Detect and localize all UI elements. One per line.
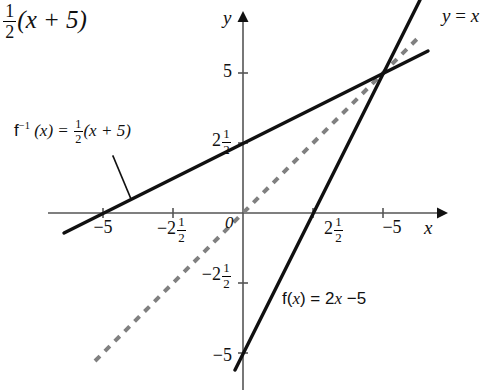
x-axis-label: x xyxy=(424,218,432,237)
mixed-whole-part: −2 xyxy=(157,218,176,238)
fraction-denominator: 2 xyxy=(74,132,83,145)
mixed-whole-part: 2 xyxy=(324,218,333,238)
fragment-tail: (x + 5) xyxy=(17,6,87,33)
inverse-exponent: −1 xyxy=(19,120,30,131)
forward-variable-2: x xyxy=(334,289,342,308)
mixed-fraction: 1 2 xyxy=(177,216,187,245)
forward-variable: x xyxy=(292,289,300,308)
mixed-fraction: 1 2 xyxy=(222,128,232,157)
inverse-argument: (x) = xyxy=(34,121,69,140)
x-tick-label-positive-5: −5 xyxy=(362,218,422,236)
inverse-fraction-one-half: 1 2 xyxy=(74,118,83,145)
identity-lhs: y xyxy=(442,5,450,26)
forward-middle: ) = 2 xyxy=(300,289,335,308)
fraction-numerator: 1 xyxy=(3,2,16,22)
fraction-denominator: 2 xyxy=(177,231,187,245)
x-tick-label-neg-5: −5 xyxy=(73,218,133,236)
identity-equals: = xyxy=(455,5,466,26)
mixed-fraction: 1 2 xyxy=(334,216,344,245)
inverse-label-leader-line xyxy=(113,156,131,199)
fraction-denominator: 2 xyxy=(334,231,344,245)
fraction-numerator: 1 xyxy=(222,262,232,277)
fraction-numerator: 1 xyxy=(334,216,344,231)
origin-label: 0 xyxy=(225,214,234,231)
fraction-denominator: 2 xyxy=(222,277,232,291)
axis-lines xyxy=(48,11,448,390)
y-tick-label-neg-2-and-half: −2 1 2 xyxy=(168,262,232,291)
identity-line-y-equals-x xyxy=(95,39,417,361)
fraction-one-half: 1 2 xyxy=(3,2,16,41)
y-axis-arrowhead xyxy=(238,11,249,22)
cropped-equation-fragment: 1 2 (x + 5) xyxy=(2,2,87,41)
forward-function-line xyxy=(235,0,420,370)
x-tick-label-2-and-half: 2 1 2 xyxy=(306,216,362,245)
fraction-numerator: 1 xyxy=(222,128,232,143)
identity-line-label: y = x xyxy=(442,6,479,25)
mixed-whole-part: 2 xyxy=(212,130,221,150)
fraction-numerator: 1 xyxy=(74,118,83,132)
x-axis-arrowhead xyxy=(437,208,448,219)
fraction-numerator: 1 xyxy=(177,216,187,231)
y-axis-label: y xyxy=(223,8,231,27)
y-tick-label-2-and-half: 2 1 2 xyxy=(178,128,232,157)
forward-name-open: f( xyxy=(282,289,292,308)
function-inverse-graph: 1 2 (x + 5) f−1 (x) = 1 2 (x + 5) f(x) =… xyxy=(0,0,488,390)
forward-constant: −5 xyxy=(342,289,366,308)
identity-rhs: x xyxy=(471,5,479,26)
y-tick-label-neg-5: −5 xyxy=(176,346,232,364)
mixed-whole-part: −2 xyxy=(202,264,221,284)
forward-function-label: f(x) = 2x −5 xyxy=(282,290,366,307)
fraction-denominator: 2 xyxy=(3,22,16,41)
x-tick-label-neg-2-and-half: −2 1 2 xyxy=(140,216,204,245)
inverse-tail: (x + 5) xyxy=(83,121,130,140)
fraction-denominator: 2 xyxy=(222,143,232,157)
graph-canvas xyxy=(0,0,488,390)
y-tick-label-5: 5 xyxy=(186,62,232,80)
mixed-fraction: 1 2 xyxy=(222,262,232,291)
inverse-function-label: f−1 (x) = 1 2 (x + 5) xyxy=(14,118,131,145)
